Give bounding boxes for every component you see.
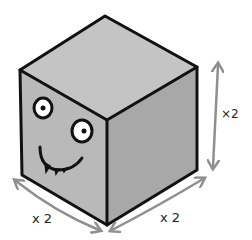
left-edge-label: x 2 <box>32 211 52 226</box>
height-arrow <box>213 65 218 167</box>
left-eye-icon <box>34 98 52 118</box>
cube-diagram: x 2 x 2 ×2 <box>0 0 252 240</box>
right-eye-icon <box>72 120 92 142</box>
height-label: ×2 <box>221 107 239 121</box>
right-edge-label: x 2 <box>160 210 180 225</box>
